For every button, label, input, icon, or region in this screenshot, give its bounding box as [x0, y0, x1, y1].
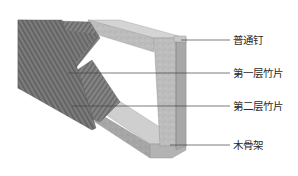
label-wood-frame: 木骨架 [233, 139, 263, 151]
label-nail: 普通钉 [233, 34, 263, 46]
label-bamboo-layer-2: 第二层竹片 [233, 100, 283, 112]
label-bamboo-layer-1: 第一层竹片 [233, 67, 283, 79]
